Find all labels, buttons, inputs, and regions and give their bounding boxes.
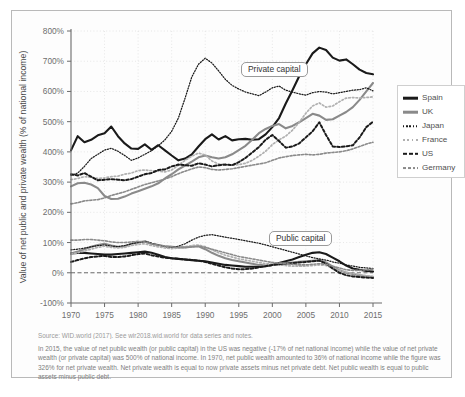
legend-swatch-japan-icon [403, 121, 418, 131]
annotation-private-capital: Private capital [241, 62, 308, 77]
y-tick-label: 500% [43, 117, 65, 127]
y-tick-label: 200% [43, 207, 65, 217]
legend-swatch-germany-icon [403, 163, 418, 173]
legend-label: Germany [422, 164, 455, 172]
series-line-uk-private [71, 83, 373, 199]
legend-swatch-spain-icon [403, 93, 418, 103]
x-tick-label: 1975 [95, 310, 114, 320]
x-tick-label: 2015 [364, 310, 383, 320]
figure-frame: 800%700%600%500%400%300%200%100%0%-100%1… [11, 10, 452, 378]
legend-label: France [422, 136, 447, 144]
x-tick-label: 2000 [263, 310, 282, 320]
y-tick-label: -100% [40, 298, 65, 308]
legend-item-spain[interactable]: Spain [403, 91, 460, 105]
legend-item-us[interactable]: US [403, 147, 460, 161]
y-tick-label: 400% [43, 147, 65, 157]
y-axis-title: Value of net public and private wealth (… [18, 51, 28, 284]
legend-label: UK [422, 108, 433, 116]
series-line-spain-private [71, 48, 373, 161]
legend-label: Spain [422, 94, 443, 102]
annotation-public-capital: Public capital [269, 231, 332, 246]
y-tick-label: 700% [43, 56, 65, 66]
source-note: Source: WID.world (2017). See wir2018.wi… [38, 332, 442, 339]
legend-item-france[interactable]: France [403, 133, 460, 147]
y-tick-label: 600% [43, 86, 65, 96]
y-tick-label: 0% [52, 268, 65, 278]
y-tick-label: 100% [43, 238, 65, 248]
legend-swatch-uk-icon [403, 107, 418, 117]
legend-label: Japan [422, 122, 444, 130]
legend-swatch-us-icon [403, 149, 418, 159]
x-tick-label: 1985 [162, 310, 181, 320]
series-line-germany-private [71, 142, 373, 204]
x-tick-label: 1970 [62, 310, 81, 320]
figure-caption: In 2015, the value of net public wealth … [38, 344, 442, 382]
chart-legend: SpainUKJapanFranceUSGermany [397, 85, 465, 178]
y-tick-label: 800% [43, 26, 65, 36]
x-tick-label: 1980 [129, 310, 148, 320]
x-tick-label: 1990 [196, 310, 215, 320]
x-tick-label: 2005 [297, 310, 316, 320]
chart-plot-area: 800%700%600%500%400%300%200%100%0%-100%1… [12, 11, 453, 331]
legend-swatch-france-icon [403, 135, 418, 145]
legend-item-japan[interactable]: Japan [403, 119, 460, 133]
y-tick-label: 300% [43, 177, 65, 187]
series-line-us-private [71, 122, 373, 181]
caption-block: Source: WID.world (2017). See wir2018.wi… [38, 332, 442, 382]
legend-label: US [422, 150, 433, 158]
legend-item-germany[interactable]: Germany [403, 161, 460, 175]
legend-item-uk[interactable]: UK [403, 105, 460, 119]
wealth-line-chart: 800%700%600%500%400%300%200%100%0%-100%1… [12, 11, 453, 331]
x-tick-label: 1995 [230, 310, 249, 320]
x-tick-label: 2010 [330, 310, 349, 320]
